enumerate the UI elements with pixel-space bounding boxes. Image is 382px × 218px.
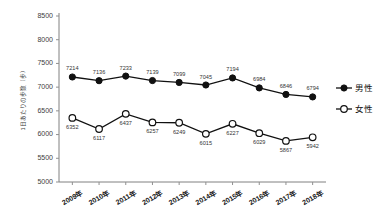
data-point-marker: [96, 126, 103, 133]
y-tick-label: 5500: [37, 154, 53, 161]
data-point-label: 5942: [306, 143, 318, 149]
data-point-label: 6117: [93, 135, 105, 141]
y-tick-label: 7000: [37, 83, 53, 90]
data-point-marker: [69, 115, 76, 122]
y-tick-label: 6000: [37, 130, 53, 137]
data-point-label: 7045: [200, 74, 212, 80]
data-point-label: 6249: [173, 129, 185, 135]
data-point-label: 6029: [253, 139, 265, 145]
x-tick-label: 2012年: [140, 188, 164, 207]
legend-marker-female: [341, 106, 348, 113]
line-chart: 500055006000650070007500800085001日あたりの歩数…: [0, 0, 382, 218]
x-tick-label: 2013年: [167, 188, 191, 207]
data-point-label: 7136: [93, 69, 105, 75]
data-point-label: 5867: [280, 147, 292, 153]
data-point-label: 6015: [200, 140, 212, 146]
data-point-label: 7233: [120, 65, 132, 71]
x-tick-label: 2016年: [247, 188, 271, 207]
data-point-marker: [283, 91, 289, 97]
series-line-female: [72, 114, 312, 141]
x-tick-label: 2017年: [274, 188, 298, 207]
data-point-label: 6846: [280, 83, 292, 89]
data-point-label: 6352: [66, 124, 78, 130]
y-axis-title: 1日あたりの歩数（歩）: [19, 67, 27, 130]
data-point-marker: [69, 74, 75, 80]
chart-canvas: 500055006000650070007500800085001日あたりの歩数…: [0, 0, 382, 218]
y-tick-label: 8000: [37, 36, 53, 43]
data-point-marker: [229, 121, 236, 128]
y-tick-label: 7500: [37, 59, 53, 66]
data-point-marker: [203, 82, 209, 88]
data-point-marker: [149, 119, 156, 126]
legend-label-male: 男性: [355, 83, 373, 93]
data-point-label: 7139: [146, 69, 158, 75]
data-point-label: 6437: [120, 120, 132, 126]
data-point-marker: [256, 130, 263, 137]
data-point-label: 6257: [146, 128, 158, 134]
data-point-marker: [123, 73, 129, 79]
legend-label-female: 女性: [355, 104, 373, 114]
series-line-male: [72, 76, 312, 97]
data-point-marker: [283, 138, 290, 145]
data-point-label: 6227: [226, 130, 238, 136]
data-point-label: 7214: [66, 65, 78, 71]
data-point-marker: [176, 119, 183, 126]
y-tick-label: 8500: [37, 12, 53, 19]
data-point-marker: [229, 75, 235, 81]
data-point-marker: [122, 111, 129, 118]
data-point-marker: [176, 79, 182, 85]
data-point-label: 6984: [253, 76, 265, 82]
x-tick-label: 2009年: [60, 188, 84, 207]
legend-marker-male: [341, 85, 347, 91]
data-point-label: 6794: [306, 85, 318, 91]
data-point-marker: [309, 134, 316, 141]
x-tick-label: 2010年: [87, 188, 111, 207]
y-tick-label: 5000: [37, 178, 53, 185]
x-tick-label: 2015年: [220, 188, 244, 207]
data-point-label: 7099: [173, 71, 185, 77]
data-point-marker: [203, 131, 210, 138]
y-tick-label: 6500: [37, 107, 53, 114]
x-tick-label: 2014年: [194, 188, 218, 207]
data-point-marker: [149, 77, 155, 83]
data-point-marker: [96, 78, 102, 84]
data-point-marker: [310, 94, 316, 100]
data-point-marker: [256, 85, 262, 91]
data-point-label: 7194: [226, 66, 238, 72]
x-tick-label: 2018年: [301, 188, 325, 207]
x-tick-label: 2011年: [114, 188, 138, 207]
